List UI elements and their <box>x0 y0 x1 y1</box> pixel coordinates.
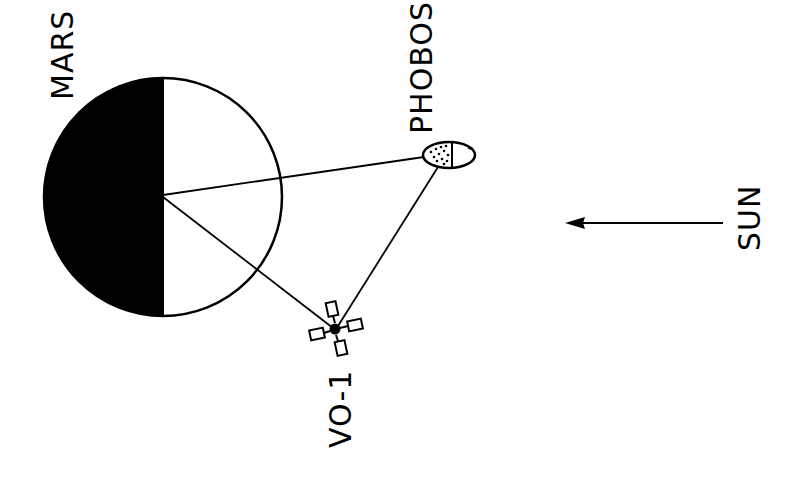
vo1-label: VO-1 <box>323 370 358 448</box>
sun-direction-arrow <box>565 217 723 229</box>
vo1-spacecraft <box>309 301 363 356</box>
phobos-moon <box>423 142 475 168</box>
phobos-label: PHOBOS <box>404 1 439 134</box>
mars-label: MARS <box>45 10 80 100</box>
line-phobos-to-vo1 <box>338 167 438 326</box>
mars-phobos-geometry-diagram: MARS PHOBOS VO-1 SUN <box>0 0 792 489</box>
sun-label: SUN <box>732 185 767 251</box>
